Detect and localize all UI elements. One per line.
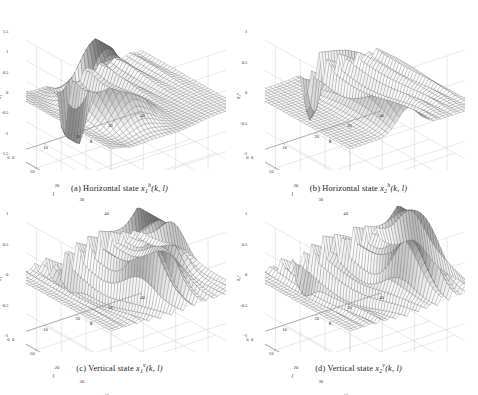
ltick-a-1: 10 [30,169,35,174]
ktick-d-4: 40 [379,295,384,300]
ztick-c-1: 0.5 [3,242,9,247]
ktick-d-2: 20 [315,316,320,321]
k-axis-label-d: k [329,320,331,326]
ztick-d-1: 0.5 [242,242,248,247]
surface-plot-b [265,10,465,170]
ztick-d-3: -0.5 [240,303,247,308]
ztick-b-2: 0 [245,90,247,95]
k-axis-label-b: k [329,138,331,144]
surface-plot-c [26,192,226,352]
surface-plot-d [265,192,465,352]
ktick-a-2: 20 [76,134,81,139]
ztick-a-1: 1 [6,49,8,54]
l-axis-label-c: l [53,373,55,379]
caption-c-prefix: (c) [76,364,86,373]
ztick-b-1: 0.5 [242,60,248,65]
ztick-b-3: -0.5 [240,121,247,126]
ktick-c-3: 30 [108,305,113,310]
ktick-c-0: 0 [12,337,14,342]
ztick-c-3: -0.5 [1,303,8,308]
ktick-d-0: 0 [251,337,253,342]
ztick-a-0: 1.5 [3,29,9,34]
ltick-c-1: 10 [30,351,35,356]
ztick-a-3: 0 [6,90,8,95]
caption-d: (d) Vertical state x2v(k, l) [239,362,478,374]
k-axis-label-a: k [90,138,92,144]
z-axis-label-a: x₁ʰ [0,94,2,100]
ktick-c-1: 10 [43,327,48,332]
surface-plot-a [26,10,226,170]
ktick-b-1: 10 [282,145,287,150]
panel-d: 10.50-0.5-1010203040010203040klx₂ᵛ (d) V… [239,186,478,383]
caption-d-var: x2v(k, l) [375,364,402,373]
ltick-d-1: 10 [269,351,274,356]
ltick-d-0: 0 [246,337,248,342]
ktick-a-4: 40 [140,113,145,118]
caption-d-prefix: (d) [315,364,325,373]
panel-b: 10.50-0.5-1010203040010203040klx₂ʰ (b) H… [239,4,478,201]
ltick-c-0: 0 [7,337,9,342]
ztick-a-5: -1 [5,131,9,136]
panel-a: 1.510.50-0.5-1-1.5010203040010203040klx₁… [0,4,239,201]
z-axis-label-c: x₁ᵛ [0,276,2,282]
caption-c-text: Vertical state [88,364,134,373]
ztick-b-0: 1 [245,29,247,34]
ztick-c-2: 0 [6,272,8,277]
ztick-a-4: -0.5 [1,110,8,115]
ktick-d-3: 30 [347,305,352,310]
plot-d: 10.50-0.5-1010203040010203040klx₂ᵛ [265,192,465,352]
ktick-c-4: 40 [140,295,145,300]
ktick-b-2: 20 [315,134,320,139]
panel-c: 10.50-0.5-1010203040010203040klx₁ᵛ (c) V… [0,186,239,383]
z-axis-label-b: x₂ʰ [235,94,241,100]
caption-d-text: Vertical state [327,364,373,373]
ztick-a-2: 0.5 [3,70,9,75]
figure-container: 1.510.50-0.5-1-1.5010203040010203040klx₁… [0,0,478,395]
ltick-a-0: 0 [7,155,9,160]
k-axis-label-c: k [90,320,92,326]
ltick-b-0: 0 [246,155,248,160]
ztick-d-2: 0 [245,272,247,277]
ktick-a-0: 0 [12,155,14,160]
ltick-d-3: 30 [319,379,324,384]
ltick-b-1: 10 [269,169,274,174]
ztick-c-0: 1 [6,211,8,216]
ltick-c-3: 30 [80,379,85,384]
ktick-a-1: 10 [43,145,48,150]
plot-c: 10.50-0.5-1010203040010203040klx₁ᵛ [26,192,226,352]
ktick-a-3: 30 [108,123,113,128]
plot-a: 1.510.50-0.5-1-1.5010203040010203040klx₁… [26,10,226,170]
plot-b: 10.50-0.5-1010203040010203040klx₂ʰ [265,10,465,170]
ktick-b-0: 0 [251,155,253,160]
ktick-d-1: 10 [282,327,287,332]
ktick-b-3: 30 [347,123,352,128]
ktick-b-4: 40 [379,113,384,118]
caption-c: (c) Vertical state x1v(k, l) [0,362,239,374]
z-axis-label-d: x₂ᵛ [235,276,241,282]
ztick-d-0: 1 [245,211,247,216]
l-axis-label-d: l [292,373,294,379]
ktick-c-2: 20 [76,316,81,321]
caption-c-var: x1v(k, l) [136,364,163,373]
